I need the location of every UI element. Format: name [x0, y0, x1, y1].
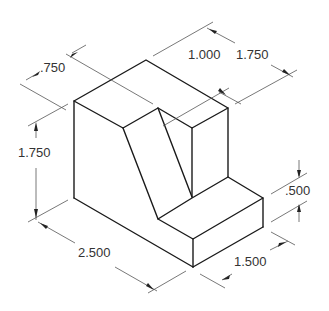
dimension-height: 1.750 — [18, 104, 68, 222]
isometric-drawing: .750 1.750 2.500 1.000 1.750 — [0, 0, 329, 311]
dim-label-height: 1.750 — [18, 145, 51, 160]
dimension-length: 2.500 — [38, 222, 186, 293]
dim-label-overall-width: 1.750 — [236, 47, 269, 62]
dimension-overall-width: 1.750 — [235, 47, 297, 104]
dim-label-step-width: 1.500 — [234, 254, 267, 269]
object-outline — [74, 60, 263, 267]
dimension-top-depth: .750 — [20, 45, 153, 110]
dim-label-top-depth: .750 — [40, 60, 65, 75]
dimension-step-height: .500 — [271, 160, 310, 222]
dim-label-length: 2.500 — [78, 245, 111, 260]
dim-label-top-width: 1.000 — [188, 47, 221, 62]
dim-label-step-height: .500 — [285, 183, 310, 198]
dimension-step-width: 1.500 — [200, 232, 295, 288]
